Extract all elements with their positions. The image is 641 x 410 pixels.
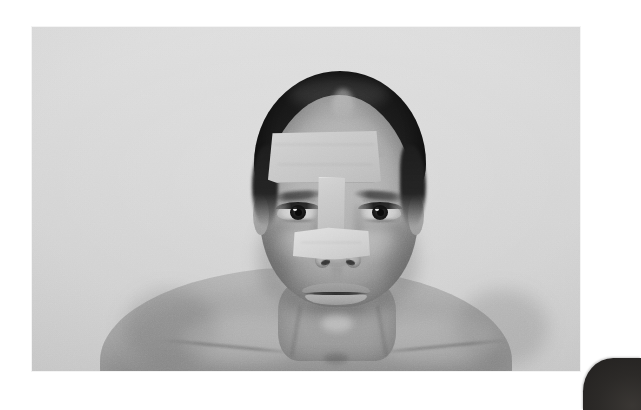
right-lower-lash-line (361, 219, 399, 222)
left-eye (277, 203, 319, 221)
forehead-tape-crease-2 (278, 164, 372, 165)
chin-highlight (320, 313, 354, 331)
forehead-tape-crease (274, 144, 374, 145)
mentolabial-shadow (304, 305, 368, 313)
dark-rounded-object (583, 358, 641, 410)
nasal-dorsum-tape (317, 177, 345, 233)
clinical-frontal-face-photo (32, 27, 580, 371)
hair-wisp (332, 89, 354, 121)
lip-line (303, 292, 369, 295)
nasal-tip-tape-crease (301, 242, 361, 243)
forehead-tape (268, 130, 381, 183)
philtrum (332, 267, 342, 283)
suprasternal-notch (324, 353, 348, 364)
left-upper-lash-line (276, 202, 320, 209)
nasal-tip-tape (293, 227, 370, 260)
right-eye (359, 203, 401, 221)
left-lower-lash-line (279, 219, 317, 222)
right-upper-lash-line (358, 202, 402, 209)
photo-subject (32, 27, 580, 371)
